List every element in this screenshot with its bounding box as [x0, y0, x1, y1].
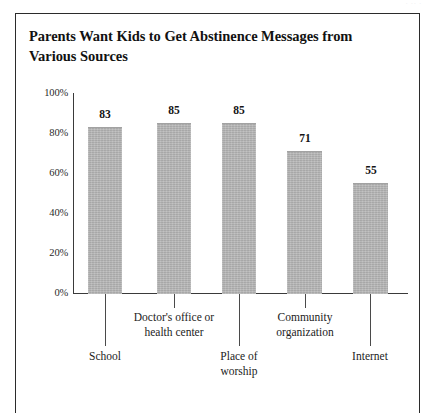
bar-internet: [353, 183, 388, 294]
y-axis-tick-label: 60%: [22, 167, 68, 178]
category-label-doctors-office: Doctor's office or health center: [124, 310, 224, 340]
y-axis-tick-label: 40%: [22, 207, 68, 218]
category-label-line: Doctor's office or: [124, 310, 224, 325]
y-axis-tick-label: 80%: [22, 127, 68, 138]
bar-value-label: 71: [275, 132, 335, 144]
bar-value-label: 85: [144, 104, 204, 116]
category-label-line: School: [62, 349, 148, 364]
bar-school: [88, 127, 122, 294]
category-label-line: organization: [257, 325, 353, 340]
y-axis-tick-label: 20%: [22, 247, 68, 258]
bar-value-label: 83: [75, 108, 135, 120]
category-label-line: Community: [257, 310, 353, 325]
y-axis-tick-label: 0%: [22, 287, 68, 298]
category-leader-line: [105, 294, 106, 346]
category-leader-line: [174, 294, 175, 308]
y-axis-line: [73, 93, 74, 294]
bar-community-organization: [287, 151, 322, 294]
y-axis-tick-label: 100%: [22, 87, 68, 98]
bar-value-label: 55: [341, 164, 401, 176]
category-label-line: Place of: [197, 349, 281, 364]
category-label-line: health center: [124, 325, 224, 340]
category-label-line: worship: [197, 364, 281, 379]
category-label-place-of-worship: Place of worship: [197, 349, 281, 379]
bar-place-of-worship: [222, 123, 256, 294]
bar-value-label: 85: [209, 104, 269, 116]
category-label-community-organization: Community organization: [257, 310, 353, 340]
category-leader-line: [370, 294, 371, 346]
bar-doctors-office: [157, 123, 191, 294]
category-label-school: School: [62, 349, 148, 364]
category-label-line: Internet: [328, 349, 412, 364]
category-leader-line: [239, 294, 240, 346]
category-leader-line: [305, 294, 306, 308]
category-label-internet: Internet: [328, 349, 412, 364]
